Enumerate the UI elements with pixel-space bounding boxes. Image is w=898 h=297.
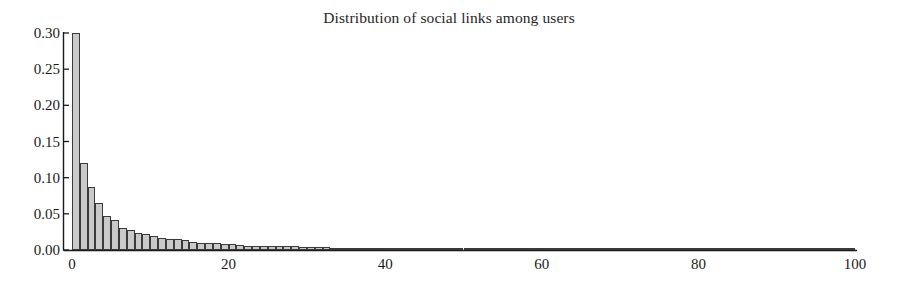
bar — [730, 248, 738, 250]
bar — [283, 246, 291, 250]
bar — [323, 247, 331, 250]
bar — [127, 230, 135, 250]
bar — [229, 244, 237, 250]
bar — [268, 246, 276, 250]
bar — [236, 245, 244, 250]
bar — [252, 246, 260, 250]
bar — [330, 248, 338, 250]
bar — [103, 216, 111, 250]
figure: Distribution of social links among users… — [0, 0, 898, 297]
bar — [816, 248, 824, 250]
bar — [362, 248, 370, 250]
bar — [534, 248, 542, 250]
bar — [667, 248, 675, 250]
bar — [597, 248, 605, 250]
bar — [448, 248, 456, 250]
bar — [72, 33, 80, 250]
bar — [785, 248, 793, 250]
bar — [800, 248, 808, 250]
bar — [158, 238, 166, 250]
bar — [205, 243, 213, 250]
bar — [299, 247, 307, 250]
bar — [166, 239, 174, 250]
bar — [651, 248, 659, 250]
bar — [745, 248, 753, 250]
bar — [464, 248, 472, 250]
bar — [581, 248, 589, 250]
bar — [495, 248, 503, 250]
bar — [182, 240, 190, 250]
bar — [698, 248, 706, 250]
bar — [824, 248, 832, 250]
bar — [753, 248, 761, 250]
bar — [174, 239, 182, 250]
bar — [291, 246, 299, 250]
bar — [244, 246, 252, 250]
bar — [197, 243, 205, 250]
bar — [354, 248, 362, 250]
plot-area: 0.000.050.100.150.200.250.30 02040608010… — [0, 0, 898, 297]
bar — [612, 248, 620, 250]
bar — [385, 248, 393, 250]
bar — [769, 248, 777, 250]
bar — [142, 234, 150, 250]
bar — [487, 248, 495, 250]
bar — [542, 248, 550, 250]
bar — [792, 248, 800, 250]
bar — [565, 248, 573, 250]
bar — [604, 248, 612, 250]
bar — [620, 248, 628, 250]
bar — [456, 248, 464, 250]
bar — [675, 248, 683, 250]
bar — [510, 248, 518, 250]
bar — [260, 246, 268, 250]
bar — [315, 247, 323, 250]
bar — [213, 243, 221, 250]
bar — [683, 248, 691, 250]
bar — [346, 248, 354, 250]
bar — [276, 246, 284, 250]
bar — [847, 248, 855, 250]
bar — [370, 248, 378, 250]
bar — [440, 248, 448, 250]
bar — [777, 248, 785, 250]
bar — [628, 248, 636, 250]
bar — [432, 248, 440, 250]
bar — [557, 248, 565, 250]
bar — [573, 248, 581, 250]
bar — [471, 248, 479, 250]
bar — [714, 248, 722, 250]
bar — [659, 248, 667, 250]
bar — [135, 233, 143, 250]
bar — [150, 236, 158, 250]
bar — [518, 248, 526, 250]
bar — [691, 248, 699, 250]
bar — [417, 248, 425, 250]
bar — [95, 203, 103, 250]
bar — [189, 242, 197, 250]
bar — [409, 248, 417, 250]
bar — [722, 248, 730, 250]
bar — [589, 248, 597, 250]
bar — [839, 248, 847, 250]
bar — [424, 248, 432, 250]
bar — [377, 248, 385, 250]
bar — [761, 248, 769, 250]
bar — [526, 248, 534, 250]
bar — [832, 248, 840, 250]
bar — [738, 248, 746, 250]
bar — [479, 248, 487, 250]
bar — [401, 248, 409, 250]
bar — [111, 220, 119, 250]
bar — [808, 248, 816, 250]
bar — [88, 187, 96, 250]
bar — [644, 248, 652, 250]
bar — [706, 248, 714, 250]
bar — [636, 248, 644, 250]
bar — [503, 248, 511, 250]
bar — [307, 247, 315, 250]
bar-series — [0, 0, 898, 297]
bar — [80, 163, 88, 250]
bar — [338, 248, 346, 250]
bar — [393, 248, 401, 250]
